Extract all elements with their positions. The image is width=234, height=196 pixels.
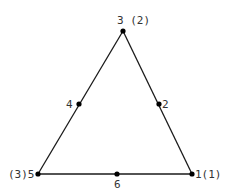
node-1-label: 1(1) — [195, 168, 222, 181]
node-4-dot — [76, 101, 81, 106]
node-6-label: 6 — [114, 178, 121, 191]
node-1-dot — [189, 171, 194, 176]
node-5-label: (3)5 — [8, 168, 35, 181]
node-5-dot — [35, 171, 40, 176]
node-4-label: 4 — [66, 98, 73, 111]
node-6-dot — [114, 171, 119, 176]
triangle-nodes — [35, 28, 194, 176]
node-3-dot — [120, 28, 125, 33]
node-2-label: 2 — [162, 98, 169, 111]
triangle-edges — [38, 31, 192, 174]
node-3-label: 3 (2) — [117, 14, 150, 27]
node-labels: 1(1) 2 3 (2) 4 (3)5 6 — [8, 14, 222, 191]
node-2-dot — [156, 101, 161, 106]
triangle-element-diagram: 1(1) 2 3 (2) 4 (3)5 6 — [0, 0, 234, 196]
